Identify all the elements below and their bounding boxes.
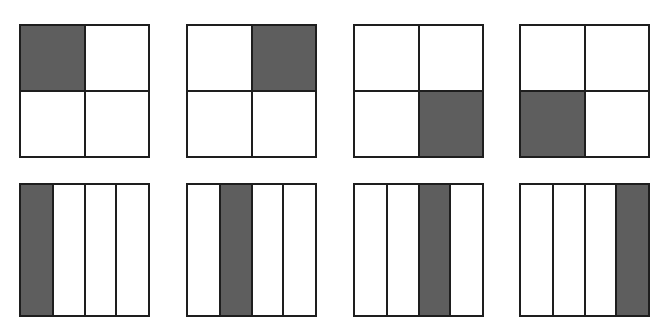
unshaded-part: [387, 185, 419, 315]
unshaded-part: [355, 91, 419, 156]
unshaded-part: [585, 26, 649, 91]
unshaded-part: [85, 185, 117, 315]
shaded-part: [21, 26, 85, 91]
strip-square-2: [186, 183, 317, 317]
shaded-part: [419, 185, 451, 315]
unshaded-part: [553, 185, 585, 315]
quadrant-square-1: [19, 24, 150, 158]
unshaded-part: [252, 91, 316, 156]
unshaded-part: [85, 91, 149, 156]
unshaded-part: [53, 185, 85, 315]
unshaded-part: [188, 185, 220, 315]
quadrant-square-3: [353, 24, 484, 158]
shaded-part: [616, 185, 648, 315]
strip-square-4: [519, 183, 650, 317]
shaded-part: [252, 26, 316, 91]
unshaded-part: [355, 185, 387, 315]
unshaded-part: [21, 91, 85, 156]
unshaded-part: [188, 91, 252, 156]
unshaded-part: [85, 26, 149, 91]
unshaded-part: [521, 185, 553, 315]
shaded-part: [521, 91, 585, 156]
strip-square-1: [19, 183, 150, 317]
quadrant-square-2: [186, 24, 317, 158]
unshaded-part: [521, 26, 585, 91]
unshaded-part: [252, 185, 284, 315]
quadrant-square-4: [519, 24, 650, 158]
unshaded-part: [450, 185, 482, 315]
unshaded-part: [116, 185, 148, 315]
unshaded-part: [283, 185, 315, 315]
unshaded-part: [188, 26, 252, 91]
unshaded-part: [585, 91, 649, 156]
shaded-part: [220, 185, 252, 315]
shaded-part: [21, 185, 53, 315]
strip-square-3: [353, 183, 484, 317]
unshaded-part: [585, 185, 617, 315]
unshaded-part: [419, 26, 483, 91]
unshaded-part: [355, 26, 419, 91]
shaded-part: [419, 91, 483, 156]
